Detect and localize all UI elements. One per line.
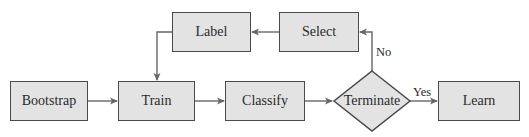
edge-label-no: No	[376, 45, 391, 60]
node-bootstrap-label: Bootstrap	[22, 93, 76, 109]
node-learn: Learn	[438, 81, 520, 121]
node-label: Label	[172, 12, 251, 52]
node-classify-label: Classify	[242, 93, 288, 109]
node-select-label: Select	[302, 24, 336, 40]
edge-terminate-to-select	[360, 32, 372, 71]
node-train-label: Train	[142, 93, 172, 109]
edge-label-to-train	[157, 32, 172, 80]
node-learn-label: Learn	[463, 93, 496, 109]
node-select: Select	[279, 12, 359, 52]
node-train: Train	[118, 81, 195, 121]
node-bootstrap: Bootstrap	[10, 81, 88, 121]
node-label-label: Label	[196, 24, 228, 40]
node-classify: Classify	[225, 81, 305, 121]
node-terminate-label: Terminate	[334, 93, 410, 109]
edge-label-yes: Yes	[413, 85, 431, 100]
flowchart-diagram: Bootstrap Train Classify Terminate Learn…	[0, 0, 529, 137]
